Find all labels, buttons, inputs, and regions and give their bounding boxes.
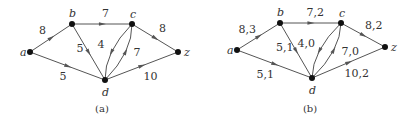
arrow-icon xyxy=(359,32,366,37)
arrow-icon xyxy=(138,65,145,69)
edge-label: 10 xyxy=(144,70,158,83)
node-c xyxy=(129,21,135,27)
edge-label: 8,2 xyxy=(365,19,383,32)
node-label-b: b xyxy=(277,6,284,19)
edge-label: 4 xyxy=(98,38,105,51)
edge-line xyxy=(312,23,341,78)
node-label-c: c xyxy=(130,8,136,21)
arrow-icon xyxy=(345,61,352,65)
node-b xyxy=(277,20,283,26)
caption-a: (a) xyxy=(95,103,109,114)
graph-b: 8,35,17,25,14,07,08,210,2abcdz(b) xyxy=(227,6,397,114)
flow-network-diagram: 857547810abcdz(a)8,35,17,25,14,07,08,210… xyxy=(0,0,411,120)
arrow-icon xyxy=(99,22,106,26)
edge-label: 8 xyxy=(159,22,166,35)
edge-d-c: 7 xyxy=(105,24,141,80)
arrow-icon xyxy=(64,63,71,67)
node-label-a: a xyxy=(227,44,234,57)
edge-b-c: 7,2 xyxy=(280,6,341,25)
node-a xyxy=(234,47,240,53)
edge-a-d: 5,1 xyxy=(237,50,312,81)
caption-b: (b) xyxy=(303,103,317,114)
edge-label: 5,1 xyxy=(257,68,275,81)
edge-label: 4,0 xyxy=(298,37,316,50)
edge-label: 7,0 xyxy=(342,45,360,58)
edge-label: 5 xyxy=(60,70,67,83)
node-label-a: a xyxy=(20,46,27,59)
node-c xyxy=(338,20,344,26)
edge-b-d: 5,1 xyxy=(276,23,312,78)
node-z xyxy=(175,49,181,55)
arrow-icon xyxy=(47,36,54,41)
edge-label: 10,2 xyxy=(345,67,370,80)
arrow-icon xyxy=(271,61,278,65)
edge-a-b: 8 xyxy=(30,24,72,52)
arrow-icon xyxy=(85,48,90,55)
edge-label: 8,3 xyxy=(239,23,257,36)
arrow-icon xyxy=(110,48,115,55)
node-d xyxy=(102,77,108,83)
arrow-icon xyxy=(330,47,335,54)
arrow-icon xyxy=(151,35,158,40)
edge-label: 5,1 xyxy=(276,41,294,54)
node-label-b: b xyxy=(69,7,76,20)
edge-a-d: 5 xyxy=(30,52,105,83)
arrow-icon xyxy=(318,47,323,54)
node-d xyxy=(309,75,315,81)
node-a xyxy=(27,49,33,55)
edge-label: 7,2 xyxy=(307,6,325,19)
edge-c-z: 8,2 xyxy=(341,19,385,47)
node-label-d: d xyxy=(102,86,109,99)
node-z xyxy=(382,44,388,50)
edge-label: 7 xyxy=(102,7,109,20)
edge-line xyxy=(312,23,341,78)
edge-b-d: 5 xyxy=(72,24,105,80)
edge-a-b: 8,3 xyxy=(237,23,280,51)
arrow-icon xyxy=(122,48,127,55)
edge-b-c: 7 xyxy=(72,7,132,26)
node-b xyxy=(69,21,75,27)
edge-label: 7 xyxy=(134,46,141,59)
node-label-z: z xyxy=(390,41,397,54)
node-label-z: z xyxy=(183,46,190,59)
edge-label: 8 xyxy=(39,24,46,37)
graph-a: 857547810abcdz(a) xyxy=(20,7,190,114)
node-label-d: d xyxy=(309,84,316,97)
node-label-c: c xyxy=(339,7,345,20)
edge-label: 5 xyxy=(77,42,84,55)
arrow-icon xyxy=(307,21,314,25)
